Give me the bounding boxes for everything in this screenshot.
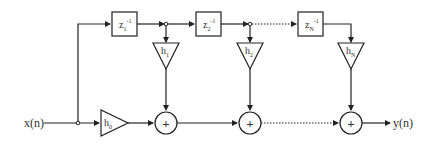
delay-box-2 (196, 12, 221, 36)
junction-dot-1 (164, 22, 168, 26)
feed-line-up (78, 24, 110, 123)
gain-h1-label: h1 (161, 45, 169, 58)
delay-box-1 (112, 12, 137, 36)
gain-h2-label: h2 (245, 45, 253, 58)
input-label: x(n) (24, 116, 44, 130)
fir-filter-diagram: x(n) y(n) z1-1 z2-1 zN-1 h0 h1 h2 hN + +… (0, 0, 430, 145)
delay-2-label: z2-1 (203, 18, 215, 32)
junction-dot-2 (248, 22, 252, 26)
output-label: y(n) (393, 116, 413, 130)
delay-n-label: zN-1 (305, 18, 319, 32)
gain-hn-label: hN (346, 45, 356, 58)
delay-1-label: z1-1 (119, 18, 131, 32)
adder-2-symbol: + (246, 116, 253, 131)
junction-dot-input (76, 121, 80, 125)
gain-h0-label: h0 (104, 117, 112, 130)
adder-n-symbol: + (347, 116, 354, 131)
adder-1-symbol: + (162, 116, 169, 131)
delay-box-n (298, 12, 323, 36)
